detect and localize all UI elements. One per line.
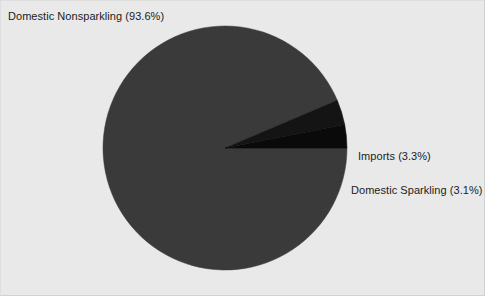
pie-chart-canvas (0, 0, 485, 296)
pie-slices-group (103, 26, 347, 270)
pie-chart-figure: Domestic Nonsparkling (93.6%) Imports (3… (0, 0, 485, 296)
slice-label-domestic-sparkling: Domestic Sparkling (3.1%) (351, 184, 482, 197)
slice-label-domestic-nonsparkling: Domestic Nonsparkling (93.6%) (8, 10, 164, 23)
slice-label-imports: Imports (3.3%) (358, 150, 431, 163)
